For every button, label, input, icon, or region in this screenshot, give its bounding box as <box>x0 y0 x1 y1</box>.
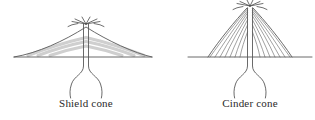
shield-cone-vent-spray <box>68 17 104 27</box>
cinder-cone-label: Cinder cone <box>222 97 278 109</box>
cinder-layer-arc <box>240 32 248 57</box>
spray-line <box>68 24 78 27</box>
cinder-layer-arc <box>253 11 286 57</box>
cinder-layer-arc <box>215 11 248 57</box>
cinder-cone-layers-right <box>253 9 291 57</box>
volcano-cone-comparison-figure: Shield cone <box>0 0 315 120</box>
shield-cone-lava-layers <box>28 38 144 56</box>
shield-cone-label: Shield cone <box>59 97 113 109</box>
shield-cone-conduit <box>70 24 102 98</box>
spray-line <box>233 7 243 10</box>
cinder-cone-diagram: Cinder cone <box>188 0 312 109</box>
cinder-layer-arc <box>253 32 261 57</box>
cinder-cone-layers-left <box>210 9 248 57</box>
spray-line <box>94 24 104 27</box>
cinder-cone-vent-spray <box>233 0 267 10</box>
cinder-cone-conduit <box>234 8 266 98</box>
spray-line <box>257 7 267 10</box>
figure-canvas: Shield cone <box>0 0 315 120</box>
shield-cone-diagram: Shield cone <box>14 17 152 109</box>
